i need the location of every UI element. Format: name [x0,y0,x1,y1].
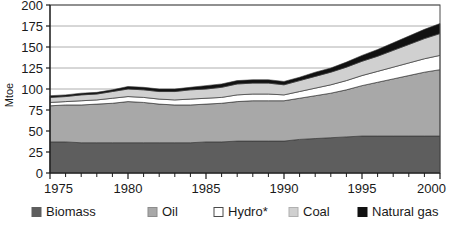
stacked-area-chart: 0255075100125150175200 19751980198519901… [0,0,455,232]
x-tick-label: 1995 [348,181,377,196]
y-axis: 0255075100125150175200 [21,0,50,181]
legend-swatch [148,208,157,217]
legend-label: Hydro* [228,204,268,219]
x-tick-label: 1975 [44,181,73,196]
x-tick-label: 1985 [192,181,221,196]
x-tick-label: 1980 [114,181,143,196]
chart-plot-area [50,5,440,173]
y-tick-label: 150 [21,40,43,55]
legend-item-biomass[interactable]: Biomass [32,204,96,219]
legend-label: Coal [303,204,330,219]
legend-swatch [32,208,41,217]
y-tick-label: 50 [29,124,43,139]
chart-figure: 0255075100125150175200 19751980198519901… [0,0,455,232]
legend-swatch [289,208,298,217]
y-tick-label: 125 [21,61,43,76]
chart-legend: BiomassOilHydro*CoalNatural gas [32,204,439,219]
x-tick-label: 1990 [270,181,299,196]
legend-item-hydro[interactable]: Hydro* [214,204,268,219]
x-axis: 197519801985199019952000 [44,173,446,196]
legend-label: Oil [162,204,178,219]
y-tick-label: 0 [36,166,43,181]
y-axis-label: Mtoe [3,83,15,107]
legend-label: Biomass [46,204,96,219]
legend-item-natural-gas[interactable]: Natural gas [358,204,439,219]
legend-swatch [358,208,367,217]
y-tick-label: 100 [21,82,43,97]
x-tick-label: 2000 [417,181,446,196]
legend-item-oil[interactable]: Oil [148,204,178,219]
legend-label: Natural gas [372,204,439,219]
y-tick-label: 200 [21,0,43,13]
y-tick-label: 75 [29,103,43,118]
y-tick-label: 25 [29,145,43,160]
legend-swatch [214,208,223,217]
y-tick-label: 175 [21,19,43,34]
legend-item-coal[interactable]: Coal [289,204,330,219]
